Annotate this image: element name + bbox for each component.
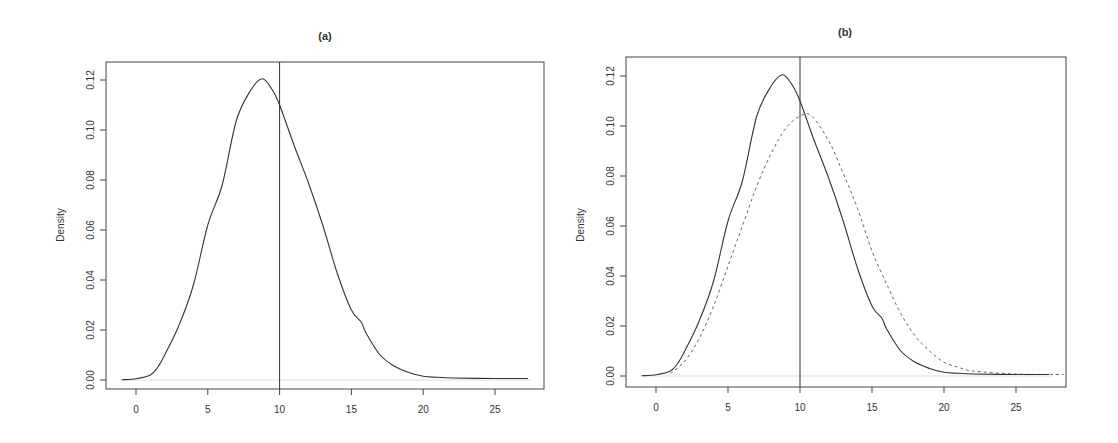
x-tick-label: 10 bbox=[794, 402, 806, 413]
y-tick-label: 0.12 bbox=[605, 66, 616, 86]
x-tick-label: 5 bbox=[205, 404, 211, 415]
x-tick-label: 5 bbox=[725, 402, 731, 413]
figure-svg: (a) Density 0.000.020.040.060.080.100.12… bbox=[0, 0, 1118, 443]
x-tick-label: 25 bbox=[1010, 402, 1022, 413]
y-tick-label: 0.06 bbox=[85, 220, 96, 240]
y-tick-label: 0.00 bbox=[85, 370, 96, 390]
y-axis-label: Density bbox=[55, 208, 66, 241]
y-tick-label: 0.08 bbox=[605, 166, 616, 186]
y-axis-label: Density bbox=[575, 208, 586, 241]
y-tick-label: 0.04 bbox=[85, 270, 96, 290]
x-tick-label: 25 bbox=[489, 404, 501, 415]
y-tick-label: 0.00 bbox=[605, 366, 616, 386]
panel-title: (b) bbox=[838, 26, 852, 38]
x-tick-label: 20 bbox=[418, 404, 430, 415]
y-tick-label: 0.10 bbox=[85, 120, 96, 140]
y-tick-label: 0.08 bbox=[85, 170, 96, 190]
y-tick-label: 0.06 bbox=[605, 216, 616, 236]
y-tick-label: 0.10 bbox=[605, 116, 616, 136]
x-tick-label: 10 bbox=[274, 404, 286, 415]
x-tick-label: 20 bbox=[938, 402, 950, 413]
y-tick-label: 0.04 bbox=[605, 266, 616, 286]
y-axis: 0.000.020.040.060.080.100.12 bbox=[85, 70, 106, 390]
density-curve-dashed bbox=[670, 114, 1063, 375]
x-tick-label: 0 bbox=[133, 404, 139, 415]
y-tick-label: 0.02 bbox=[85, 320, 96, 340]
x-axis: 0510152025 bbox=[133, 389, 501, 415]
y-tick-label: 0.12 bbox=[85, 70, 96, 90]
x-axis: 0510152025 bbox=[653, 387, 1022, 413]
density-curve-solid bbox=[122, 79, 528, 380]
y-tick-label: 0.02 bbox=[605, 316, 616, 336]
figure: (a) Density 0.000.020.040.060.080.100.12… bbox=[0, 0, 1118, 443]
panel-a: (a) Density 0.000.020.040.060.080.100.12… bbox=[55, 30, 544, 415]
x-tick-label: 15 bbox=[866, 402, 878, 413]
panel-b: (b) Density 0.000.020.040.060.080.100.12… bbox=[575, 26, 1066, 413]
x-tick-label: 0 bbox=[653, 402, 659, 413]
y-axis: 0.000.020.040.060.080.100.12 bbox=[605, 66, 626, 386]
panel-title: (a) bbox=[318, 30, 332, 42]
x-tick-label: 15 bbox=[346, 404, 358, 415]
